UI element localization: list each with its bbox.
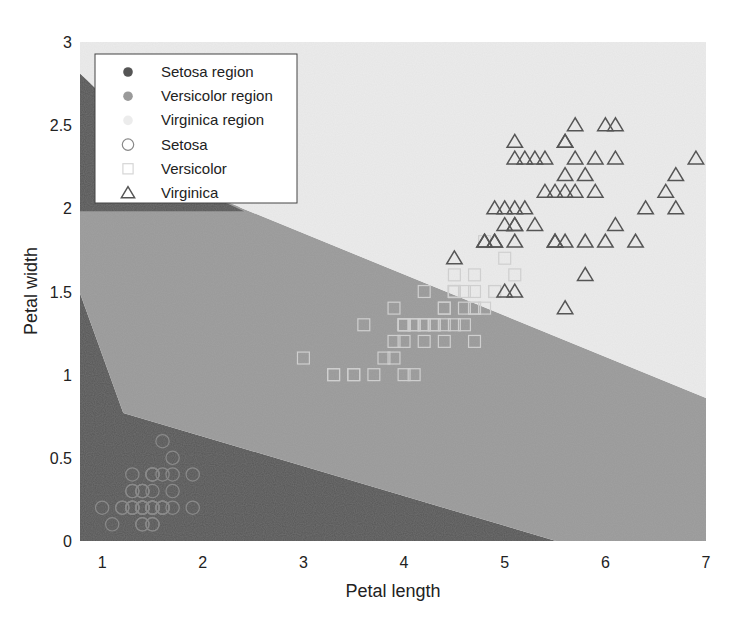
x-tick-label: 2	[198, 554, 207, 571]
y-axis-label: Petal width	[21, 247, 41, 335]
y-tick-label: 3	[63, 34, 72, 51]
legend-label: Virginica region	[161, 111, 264, 128]
legend-marker-icon	[123, 67, 133, 77]
legend-label: Versicolor	[161, 160, 227, 177]
legend-label: Versicolor region	[161, 87, 273, 104]
legend: Setosa regionVersicolor regionVirginica …	[95, 54, 297, 203]
x-tick-label: 6	[601, 554, 610, 571]
chart: 123456700.511.522.53 Petal length Petal …	[0, 0, 730, 620]
x-tick-label: 3	[299, 554, 308, 571]
legend-label: Setosa region	[161, 63, 254, 80]
y-tick-label: 1	[63, 367, 72, 384]
legend-marker-icon	[123, 116, 133, 126]
y-tick-label: 2.5	[50, 117, 72, 134]
x-tick-label: 4	[400, 554, 409, 571]
x-tick-label: 1	[98, 554, 107, 571]
y-tick-label: 2	[63, 200, 72, 217]
x-tick-label: 7	[702, 554, 711, 571]
x-axis-label: Petal length	[345, 581, 440, 601]
y-tick-label: 0.5	[50, 450, 72, 467]
x-tick-label: 5	[500, 554, 509, 571]
legend-label: Setosa	[161, 136, 208, 153]
legend-marker-icon	[123, 91, 133, 101]
legend-label: Virginica	[161, 184, 219, 201]
y-tick-label: 1.5	[50, 284, 72, 301]
y-tick-label: 0	[63, 533, 72, 550]
